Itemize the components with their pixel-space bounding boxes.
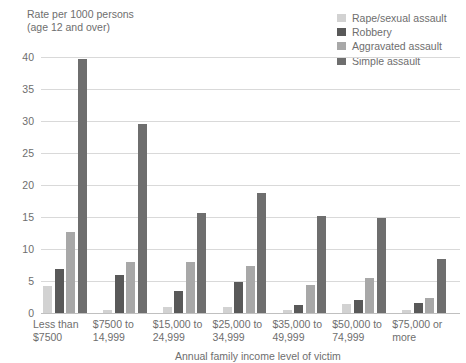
y-axis-title: Rate per 1000 persons (age 12 and over) — [27, 8, 134, 34]
y-tick-label-35: 35 — [8, 84, 34, 94]
y-tick-label-0: 0 — [8, 308, 34, 318]
bar — [306, 285, 315, 313]
bar — [257, 193, 266, 313]
bar — [223, 307, 232, 313]
bar — [126, 262, 135, 313]
bar — [246, 266, 255, 313]
legend-label-aggravated-assault: Aggravated assault — [352, 39, 442, 53]
legend-swatch-aggravated-assault — [337, 42, 346, 50]
legend-item-rape-sexual-assault: Rape/sexual assault — [337, 11, 447, 25]
bar-group — [163, 57, 207, 313]
bar — [115, 275, 124, 313]
bar — [365, 278, 374, 313]
legend-label-robbery: Robbery — [352, 25, 392, 39]
bar — [294, 305, 303, 313]
x-axis-tick-labels: Less than $7500$7500 to 14,999$15,000 to… — [41, 318, 460, 348]
bar — [354, 300, 363, 313]
bar-chart: Rate per 1000 persons (age 12 and over) … — [0, 0, 466, 363]
legend-label-rape-sexual-assault: Rape/sexual assault — [352, 11, 447, 25]
bar — [103, 310, 112, 313]
bar-group — [402, 57, 446, 313]
legend-item-robbery: Robbery — [337, 25, 447, 39]
bar-group — [342, 57, 386, 313]
bar — [342, 304, 351, 313]
bar — [197, 213, 206, 313]
x-tick-label: $75,000 or more — [392, 318, 462, 343]
y-tick-label-20: 20 — [8, 180, 34, 190]
y-tick-label-25: 25 — [8, 148, 34, 158]
y-tick-label-10: 10 — [8, 244, 34, 254]
bar — [402, 310, 411, 313]
y-tick-label-15: 15 — [8, 212, 34, 222]
y-tick-label-30: 30 — [8, 116, 34, 126]
plot-area — [41, 57, 460, 313]
bar — [55, 269, 64, 313]
legend-swatch-rape-sexual-assault — [337, 14, 346, 22]
bar-group — [283, 57, 327, 313]
legend-swatch-robbery — [337, 28, 346, 36]
bar — [377, 218, 386, 313]
bar — [66, 232, 75, 313]
bar — [43, 286, 52, 313]
bar — [437, 259, 446, 313]
gridline-0 — [41, 313, 460, 314]
bar-group — [223, 57, 267, 313]
bar — [138, 124, 147, 313]
bar — [283, 310, 292, 313]
y-tick-label-5: 5 — [8, 276, 34, 286]
x-axis-title: Annual family income level of victim — [175, 350, 341, 362]
bar — [234, 282, 243, 313]
bar — [186, 262, 195, 313]
y-tick-label-40: 40 — [8, 52, 34, 62]
bar — [425, 298, 434, 313]
bar-groups — [41, 57, 460, 313]
bar-group — [43, 57, 87, 313]
legend-item-aggravated-assault: Aggravated assault — [337, 39, 447, 53]
bar — [414, 303, 423, 313]
bar — [78, 59, 87, 313]
bar — [317, 216, 326, 313]
bar-group — [103, 57, 147, 313]
bar — [174, 291, 183, 313]
bar — [163, 307, 172, 313]
